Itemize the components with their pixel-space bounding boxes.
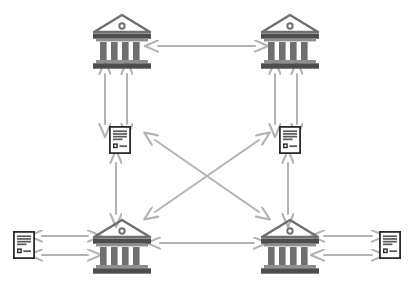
connector-layer (0, 0, 413, 281)
bank-top-left-icon (91, 13, 153, 71)
diagram-canvas (0, 0, 413, 281)
document-mid-left-icon (109, 126, 131, 154)
bank-bottom-right-icon (259, 218, 321, 276)
bank-top-right-icon (259, 13, 321, 71)
bank-bottom-left-icon (91, 218, 153, 276)
document-mid-right-icon (279, 126, 301, 154)
document-far-right-icon (379, 231, 401, 259)
document-far-left-icon (13, 231, 35, 259)
